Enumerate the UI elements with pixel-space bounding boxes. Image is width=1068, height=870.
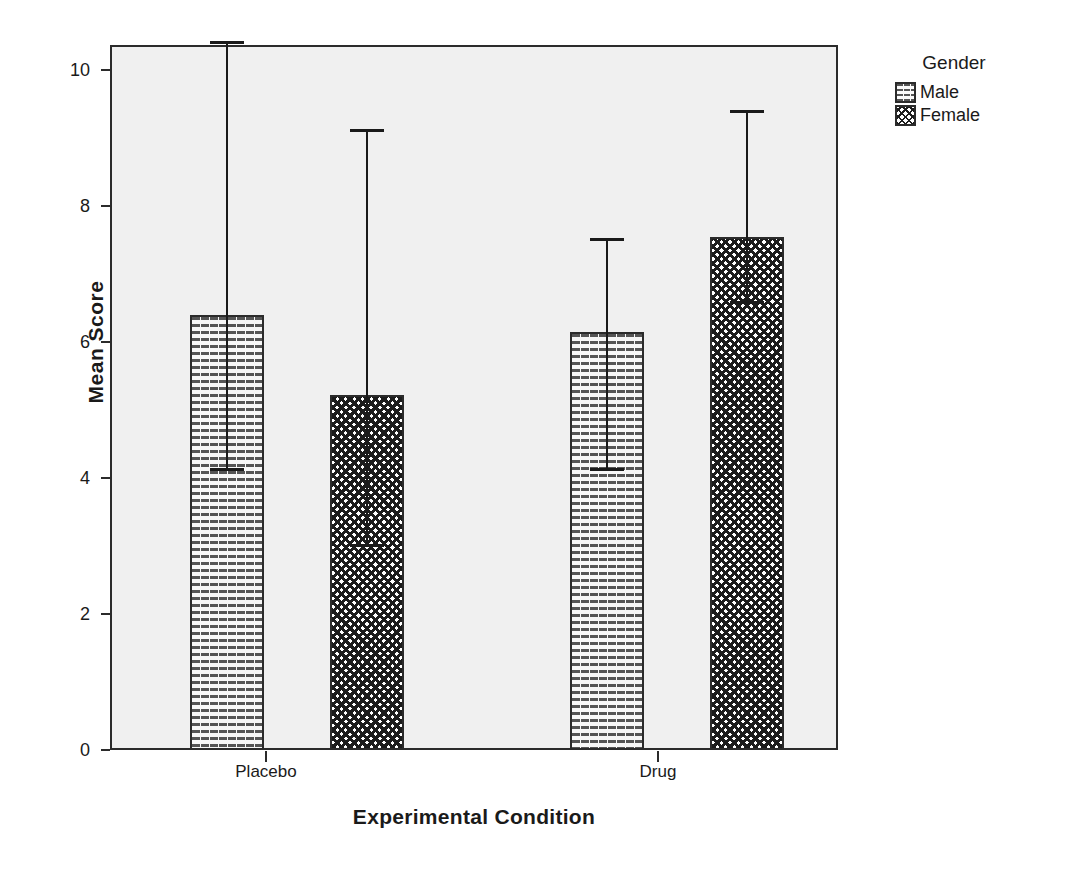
legend-swatch-male-icon <box>895 82 916 103</box>
y-tick-label-0: 0 <box>50 740 90 761</box>
x-tick-mark-drug <box>657 751 659 762</box>
errorbar-cap-lower-drug-male <box>590 468 624 471</box>
errorbar-cap-upper-drug-female <box>730 110 764 113</box>
bar-chart: Mean Score 0 2 4 6 8 10 Place <box>0 0 1068 870</box>
legend: Gender Male Female <box>895 52 1060 128</box>
x-tick-mark-placebo <box>265 751 267 762</box>
errorbar-stem-drug-female <box>746 110 748 304</box>
bar-drug-female[interactable] <box>710 237 784 750</box>
legend-item-male[interactable]: Male <box>895 82 1060 103</box>
errorbar-cap-upper-drug-male <box>590 238 624 241</box>
y-tick-mark-6 <box>101 341 110 343</box>
y-tick-label-6: 6 <box>50 332 90 353</box>
y-tick-mark-8 <box>101 205 110 207</box>
errorbar-stem-drug-male <box>606 238 608 471</box>
x-axis-title: Experimental Condition <box>110 805 838 829</box>
y-tick-mark-2 <box>101 613 110 615</box>
errorbar-stem-placebo-female <box>366 129 368 547</box>
errorbar-cap-upper-placebo-female <box>350 129 384 132</box>
errorbar-stem-placebo-male <box>226 41 228 471</box>
legend-title: Gender <box>895 52 1013 74</box>
errorbar-cap-lower-placebo-male <box>210 468 244 471</box>
y-tick-mark-10 <box>101 69 110 71</box>
x-tick-label-drug: Drug <box>578 762 738 782</box>
y-tick-mark-0 <box>101 749 110 751</box>
y-tick-label-10: 10 <box>50 60 90 81</box>
errorbar-cap-upper-placebo-male <box>210 41 244 44</box>
y-tick-label-8: 8 <box>50 196 90 217</box>
plot-area <box>110 45 838 750</box>
legend-label-female: Female <box>920 105 980 126</box>
legend-swatch-female-icon <box>895 105 916 126</box>
legend-item-female[interactable]: Female <box>895 105 1060 126</box>
errorbar-cap-lower-drug-female <box>730 301 764 304</box>
y-tick-label-2: 2 <box>50 604 90 625</box>
y-tick-mark-4 <box>101 477 110 479</box>
errorbar-cap-lower-placebo-female <box>350 544 384 547</box>
x-tick-label-placebo: Placebo <box>186 762 346 782</box>
legend-label-male: Male <box>920 82 959 103</box>
y-tick-label-4: 4 <box>50 468 90 489</box>
